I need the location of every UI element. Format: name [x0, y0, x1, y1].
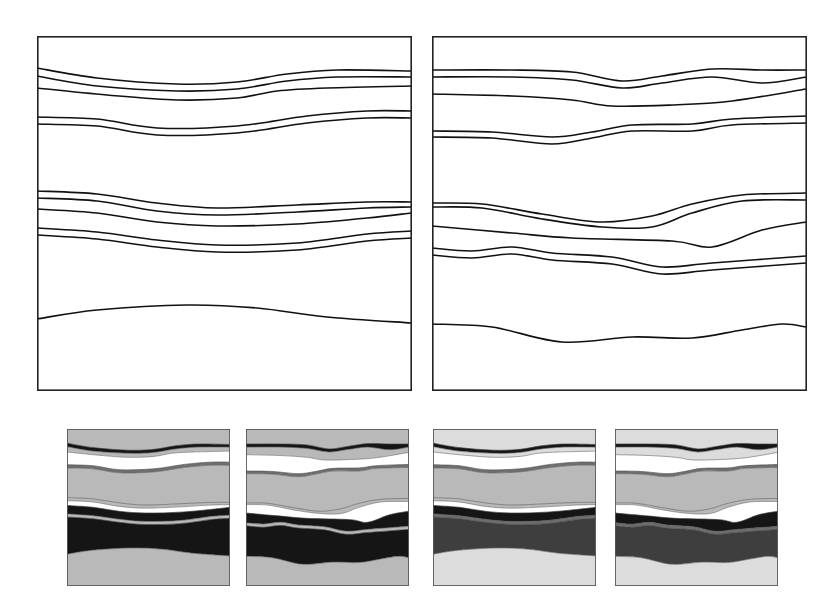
horizon-line [37, 209, 411, 226]
layer-fill-2 [246, 429, 409, 586]
horizon-line [432, 89, 806, 106]
horizon-panel-right [432, 36, 807, 391]
layer-fill-1 [67, 429, 230, 586]
horizon-line [37, 86, 411, 100]
horizon-line [432, 222, 806, 247]
filled-model-4 [615, 429, 778, 586]
filled-model-3 [433, 429, 596, 586]
layer-fill-3 [433, 429, 596, 586]
horizon-line [432, 324, 806, 342]
layer-fill-4 [615, 429, 778, 586]
horizon-line [37, 305, 411, 323]
horizon-line [37, 191, 411, 208]
horizon-line [432, 77, 806, 88]
filled-model-1 [67, 429, 230, 586]
horizon-line [432, 116, 806, 137]
horizon-line [432, 254, 806, 274]
horizon-panel-left [37, 36, 412, 391]
horizon-lines-left [37, 36, 412, 391]
filled-model-2 [246, 429, 409, 586]
horizon-lines-right [432, 36, 807, 391]
horizon-line [432, 193, 806, 222]
horizon-line [432, 69, 806, 81]
horizon-line [37, 235, 411, 252]
